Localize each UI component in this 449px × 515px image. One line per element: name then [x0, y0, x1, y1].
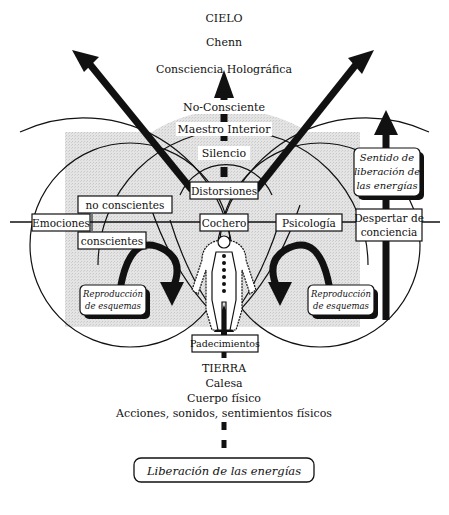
box-padecimientos: Padecimientos [190, 335, 260, 352]
label-cuerpo-fisico: Cuerpo físico [187, 392, 261, 405]
svg-text:Emociones: Emociones [32, 217, 90, 229]
box-conscientes: conscientes [78, 232, 146, 249]
svg-text:las energías: las energías [356, 180, 417, 191]
box-cochero: Cochero [200, 214, 248, 231]
label-silencio: Silencio [202, 147, 247, 160]
svg-text:Reproducción: Reproducción [310, 289, 371, 299]
label-cielo: CIELO [205, 12, 242, 25]
box-distorsiones: Distorsiones [190, 182, 258, 199]
box-reproduccion-left: Reproducción de esquemas [80, 285, 150, 319]
svg-text:no conscientes: no conscientes [86, 199, 165, 211]
svg-text:conscientes: conscientes [81, 235, 143, 247]
svg-text:Liberación de las energías: Liberación de las energías [146, 464, 301, 478]
svg-text:Cochero: Cochero [202, 217, 247, 229]
box-no-conscientes: no conscientes [78, 196, 172, 213]
label-calesa: Calesa [205, 377, 243, 390]
svg-text:Psicología: Psicología [282, 217, 336, 229]
svg-text:Despertar de: Despertar de [354, 212, 424, 224]
label-tierra: TIERRA [202, 362, 247, 375]
label-acciones: Acciones, sonidos, sentimientos físicos [115, 407, 332, 420]
diagram-canvas: CIELO Chenn Consciencia Holográfica No-C… [0, 0, 449, 515]
box-psicologia: Psicología [276, 214, 342, 231]
label-no-consciente: No-Consciente [183, 101, 265, 114]
svg-text:de esquemas: de esquemas [313, 301, 370, 311]
svg-text:conciencia: conciencia [361, 226, 418, 238]
svg-text:Distorsiones: Distorsiones [191, 185, 257, 197]
box-sentido-liberacion: Sentido de liberación de las energías [354, 148, 424, 200]
svg-text:de esquemas: de esquemas [85, 301, 142, 311]
box-liberacion-energias: Liberación de las energías [134, 458, 314, 482]
label-chenn: Chenn [206, 36, 242, 49]
svg-text:Sentido de: Sentido de [360, 152, 414, 163]
box-emociones: Emociones [32, 214, 92, 231]
label-maestro-interior: Maestro Interior [178, 123, 272, 136]
svg-text:liberación de: liberación de [354, 166, 420, 177]
svg-text:Reproducción: Reproducción [82, 289, 143, 299]
box-despertar-conciencia: Despertar de conciencia [354, 209, 424, 241]
box-reproduccion-right: Reproducción de esquemas [308, 285, 378, 319]
label-consciencia-holografica: Consciencia Holográfica [156, 63, 292, 76]
svg-text:Padecimientos: Padecimientos [190, 338, 260, 349]
